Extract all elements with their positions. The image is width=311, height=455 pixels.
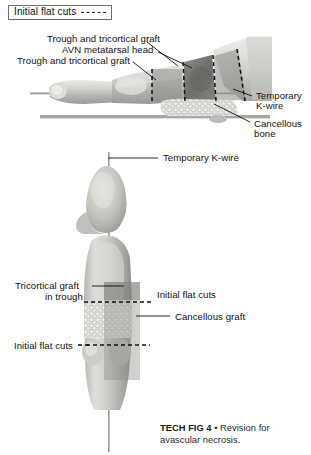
label-tricortical-graft-line1: Tricortical graft: [15, 280, 79, 291]
label-trough-tricortical-graft-upper: Trough and tricortical graft: [47, 33, 160, 44]
label-cancellous-bone-line2: bone: [254, 128, 276, 139]
legend-key: Initial flat cuts: [8, 5, 112, 20]
label-initial-flat-cuts-lower: Initial flat cuts: [14, 340, 73, 351]
bottom-panel-illustration: [76, 152, 170, 452]
legend-label: Initial flat cuts: [14, 7, 76, 17]
caption-figure-number: TECH FIG 4: [160, 422, 212, 433]
label-initial-flat-cuts-upper: Initial flat cuts: [157, 289, 216, 300]
label-cancellous-graft: Cancellous graft: [175, 311, 245, 322]
label-trough-tricortical-graft-lower: Trough and tricortical graft: [17, 55, 130, 66]
dashed-line-icon: [81, 12, 106, 13]
figure-caption: TECH FIG 4 • Revision for avascular necr…: [160, 422, 308, 445]
label-avn-metatarsal-head: AVN metatarsal head: [62, 44, 153, 55]
label-temporary-k-wire-top-line2: K-wire: [256, 100, 283, 111]
label-temporary-k-wire-bottom: Temporary K-wire: [163, 152, 239, 163]
caption-bullet-icon: •: [214, 422, 217, 433]
figure-artwork: [0, 0, 311, 455]
label-tricortical-graft-line2: in trough: [45, 291, 83, 302]
